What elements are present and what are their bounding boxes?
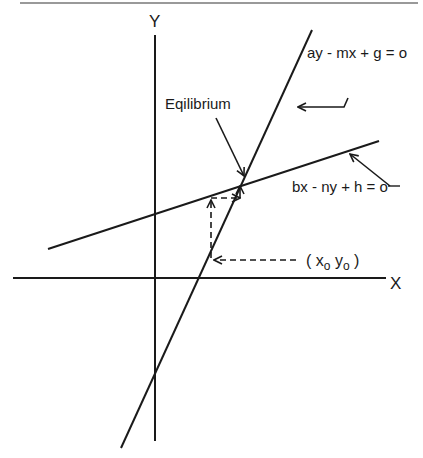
start-point-close: ) bbox=[350, 252, 360, 269]
equation-label-steep: ay - mx + g = o bbox=[307, 44, 407, 61]
equilibrium-arrow bbox=[216, 118, 244, 176]
start-point-label: ( xo yo ) bbox=[306, 252, 359, 273]
arrow-to-steep-line bbox=[298, 98, 348, 107]
equation-label-shallow: bx - ny + h = o bbox=[292, 178, 388, 195]
line-bx-ny-h bbox=[48, 141, 379, 249]
y-axis-label: Y bbox=[149, 12, 160, 31]
start-point-y: y bbox=[330, 252, 342, 269]
start-point-open: ( x bbox=[306, 252, 324, 269]
equilibrium-diagram: Y X ay - mx + g = o bx - ny + h = o Eqil… bbox=[0, 0, 423, 458]
x-axis-label: X bbox=[390, 274, 401, 293]
line-ay-mx-g bbox=[121, 30, 312, 448]
equilibrium-label: Eqilibrium bbox=[165, 95, 231, 112]
